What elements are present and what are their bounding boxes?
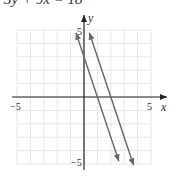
x-tick-neg5: −5 <box>10 101 21 112</box>
series-line-2 <box>89 33 133 166</box>
x-axis-label: x <box>160 100 167 114</box>
y-tick-neg5: −5 <box>71 157 82 168</box>
x-tick-5: 5 <box>147 101 152 112</box>
y-tick-5: 5 <box>77 26 82 37</box>
graph: −5 5 x 5 −5 y <box>0 0 178 183</box>
y-axis-label: y <box>87 11 94 25</box>
series-lines <box>76 33 134 166</box>
